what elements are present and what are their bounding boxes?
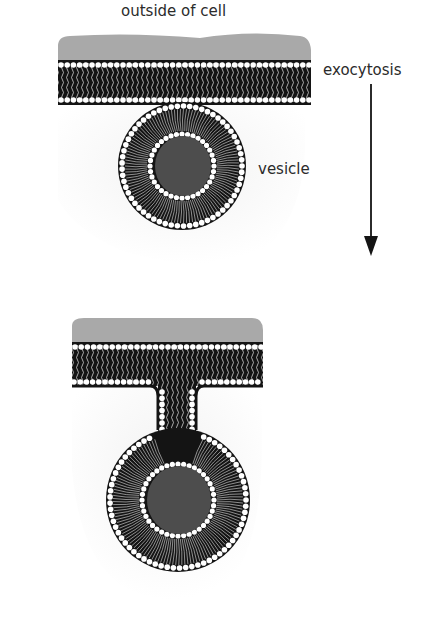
cargo xyxy=(147,466,211,534)
outside-of-cell-label: outside of cell xyxy=(121,2,226,20)
plasma-membrane xyxy=(58,60,312,105)
exocytosis-label: exocytosis xyxy=(323,61,402,79)
fused-vesicle xyxy=(106,428,250,572)
cargo xyxy=(155,136,211,196)
arrow-down-icon xyxy=(364,84,378,256)
extracellular-space xyxy=(58,33,311,62)
vesicle xyxy=(118,102,246,230)
vesicle-label: vesicle xyxy=(258,160,310,178)
exocytosis-diagram xyxy=(0,0,428,631)
stage-1 xyxy=(58,33,312,264)
stage-2 xyxy=(71,318,264,600)
